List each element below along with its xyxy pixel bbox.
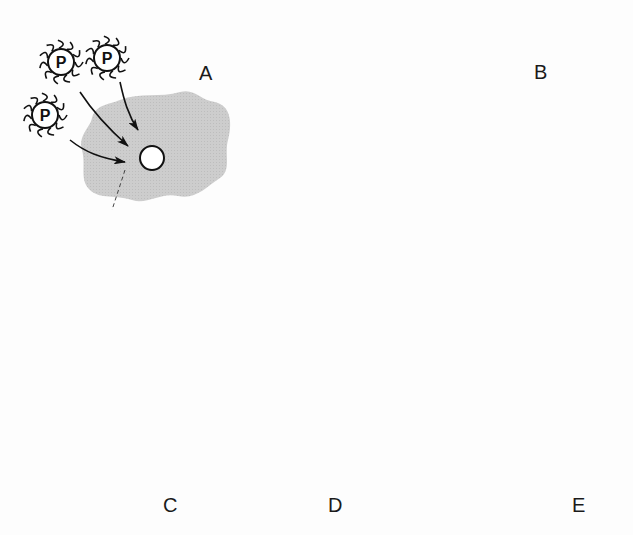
panel-label-e: E	[572, 495, 585, 515]
svg-text:P: P	[102, 50, 113, 67]
particle-p-2: P	[94, 45, 120, 71]
particle-p-1: P	[48, 49, 74, 75]
panel-label-a: A	[199, 63, 212, 83]
nucleus-a	[140, 146, 164, 170]
panel-label-b: B	[534, 62, 547, 82]
svg-text:P: P	[40, 107, 51, 124]
svg-text:P: P	[56, 54, 67, 71]
diagram-canvas: P P P	[0, 0, 633, 535]
particle-p-3: P	[32, 102, 58, 128]
panel-label-c: C	[163, 495, 177, 515]
panel-label-d: D	[328, 495, 342, 515]
